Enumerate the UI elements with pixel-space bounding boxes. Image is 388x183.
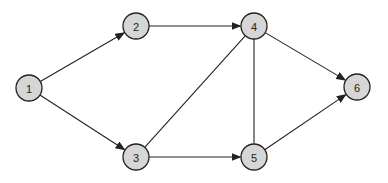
node-label: 1 <box>26 83 32 95</box>
edge-5-6-arrow <box>265 95 346 150</box>
edge-1-3-arrow <box>40 95 125 150</box>
node-label: 5 <box>251 152 257 164</box>
node-3: 3 <box>123 144 149 170</box>
node-label: 2 <box>133 21 139 33</box>
node-4: 4 <box>241 13 267 39</box>
node-1: 1 <box>16 75 42 101</box>
node-2: 2 <box>123 13 149 39</box>
node-5: 5 <box>241 144 267 170</box>
edge-3-4-line <box>145 36 245 147</box>
edge-4-6-arrow <box>265 33 345 80</box>
node-label: 4 <box>251 21 257 33</box>
network-diagram: 123456 <box>0 0 388 183</box>
node-label: 3 <box>133 152 139 164</box>
node-label: 6 <box>354 82 360 94</box>
edges-layer <box>40 26 346 157</box>
edge-1-2-arrow <box>40 33 124 82</box>
nodes-layer: 123456 <box>16 13 370 170</box>
node-6: 6 <box>344 74 370 100</box>
